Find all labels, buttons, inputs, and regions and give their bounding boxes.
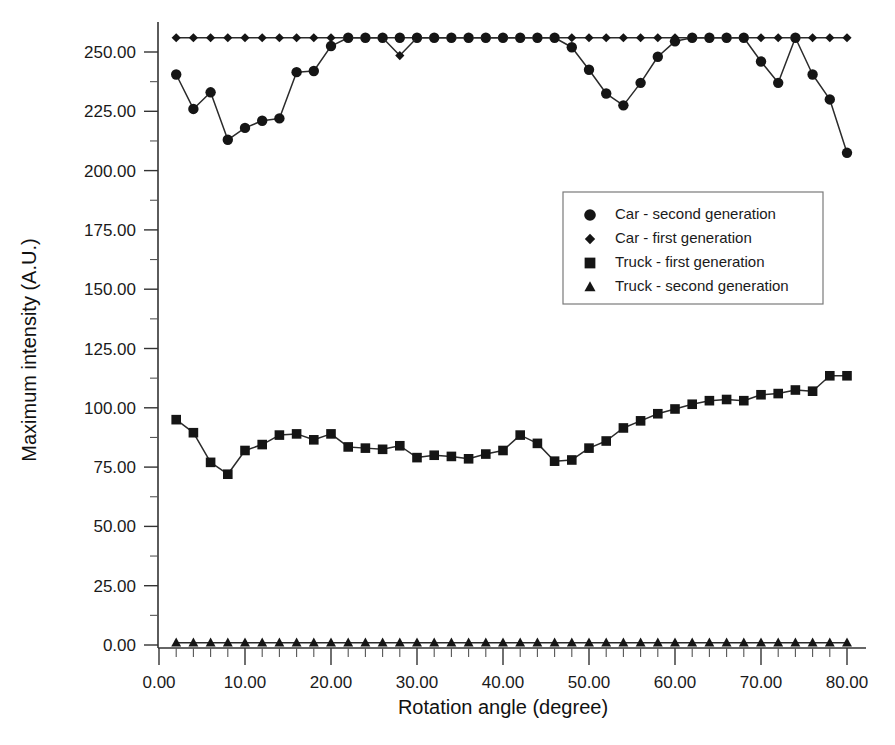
marker-square [773,389,783,399]
marker-square [791,385,801,395]
marker-circle [567,42,577,52]
marker-square [705,396,715,406]
marker-circle [756,56,766,66]
marker-square [412,453,422,463]
axis-tick-labels: 0.0025.0050.0075.00100.00125.00150.00175… [84,43,868,692]
marker-circle [257,116,267,126]
legend-label: Truck - first generation [615,253,765,270]
marker-circle [274,113,284,123]
marker-circle [618,100,628,110]
marker-diamond [172,33,181,42]
legend-label: Truck - second generation [615,277,789,294]
marker-square [378,445,388,455]
y-tick-label: 100.00 [84,399,136,418]
marker-diamond [309,33,318,42]
marker-circle [773,78,783,88]
marker-square [498,446,508,456]
marker-diamond [326,33,335,42]
marker-diamond [584,33,593,42]
marker-circle [584,65,594,75]
marker-square [275,430,285,440]
series-line [176,376,847,474]
marker-square [636,416,646,426]
marker-square [326,429,336,439]
marker-square [670,404,680,414]
y-tick-label: 25.00 [93,577,136,596]
marker-diamond [275,33,284,42]
x-tick-label: 50.00 [568,673,611,692]
marker-square [584,443,594,453]
x-tick-label: 40.00 [482,673,525,692]
marker-square [343,442,353,452]
marker-square [223,469,233,479]
y-axis-title: Maximum intensity (A.U.) [18,238,40,461]
marker-square [292,429,302,439]
legend-label: Car - first generation [615,229,752,246]
marker-square [687,399,697,409]
marker-square [739,396,749,406]
series-line [176,38,847,153]
marker-diamond [258,33,267,42]
marker-diamond [602,33,611,42]
marker-diamond [206,33,215,42]
x-tick-label: 0.00 [142,673,175,692]
marker-square [722,395,732,405]
marker-square [825,371,835,381]
marker-circle [842,148,852,158]
marker-diamond [808,33,817,42]
marker-circle [205,87,215,97]
marker-circle [395,33,405,43]
marker-square [567,455,577,465]
marker-square [171,415,181,425]
marker-diamond [653,33,662,42]
marker-square [429,450,439,460]
chart-container: 0.0025.0050.0075.00100.00125.00150.00175… [0,0,895,745]
marker-circle [584,209,596,221]
x-tick-label: 30.00 [396,673,439,692]
marker-square [808,386,818,396]
x-tick-label: 60.00 [654,673,697,692]
marker-circle [171,69,181,79]
marker-circle [635,78,645,88]
marker-square [653,409,663,419]
axes-layer [158,22,866,648]
marker-diamond [223,33,232,42]
chart-legend[interactable]: Car - second generationCar - first gener… [563,192,823,304]
x-tick-label: 80.00 [826,673,869,692]
marker-square [464,454,474,464]
marker-square [756,390,766,400]
marker-diamond [756,33,765,42]
legend-item[interactable]: Truck - second generation [584,277,788,294]
marker-square [240,446,250,456]
series-square [171,371,851,479]
marker-diamond [842,33,851,42]
y-tick-label: 50.00 [93,517,136,536]
axis-ticks [144,52,847,665]
marker-circle [653,52,663,62]
marker-diamond [189,33,198,42]
marker-circle [309,66,319,76]
y-tick-label: 200.00 [84,162,136,181]
y-tick-label: 0.00 [103,636,136,655]
series-triangle [171,637,852,646]
y-tick-label: 250.00 [84,43,136,62]
marker-circle [240,123,250,133]
marker-diamond [292,33,301,42]
marker-diamond [636,33,645,42]
marker-circle [188,104,198,114]
marker-circle [326,41,336,51]
marker-square [585,258,596,269]
marker-diamond [825,33,834,42]
marker-square [189,428,199,438]
marker-diamond [240,33,249,42]
marker-square [257,440,267,450]
marker-square [533,439,543,449]
x-axis-title: Rotation angle (degree) [398,696,608,718]
y-tick-label: 125.00 [84,340,136,359]
y-tick-label: 225.00 [84,102,136,121]
marker-circle [807,69,817,79]
marker-diamond [567,33,576,42]
x-tick-label: 20.00 [310,673,353,692]
marker-square [395,441,405,451]
y-tick-label: 150.00 [84,280,136,299]
